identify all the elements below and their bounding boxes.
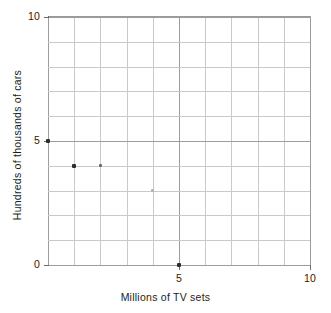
- y-axis-title: Hundreds of thousands of cars: [11, 55, 23, 235]
- data-point: [72, 164, 76, 168]
- gridline-horizontal: [48, 17, 310, 18]
- gridline-horizontal: [48, 191, 310, 192]
- gridline-horizontal: [48, 215, 310, 216]
- x-tick-mark: [310, 265, 311, 270]
- y-tick-mark: [44, 265, 49, 266]
- data-point: [177, 263, 181, 267]
- scatter-chart: 0510 510 Millions of TV sets Hundreds of…: [0, 0, 331, 313]
- y-tick-label: 10: [18, 10, 40, 22]
- gridline-horizontal: [48, 141, 310, 142]
- gridline-vertical: [310, 17, 311, 265]
- gridline-horizontal: [48, 91, 310, 92]
- x-tick-label: 10: [298, 272, 322, 284]
- x-tick-label: 5: [167, 272, 191, 284]
- gridline-horizontal: [48, 67, 310, 68]
- gridline-horizontal: [48, 116, 310, 117]
- gridline-horizontal: [48, 42, 310, 43]
- data-point: [46, 139, 50, 143]
- gridline-horizontal: [48, 166, 310, 167]
- y-tick-mark: [44, 17, 49, 18]
- x-axis-title: Millions of TV sets: [0, 291, 331, 303]
- y-tick-label: 0: [18, 258, 40, 270]
- gridline-horizontal: [48, 240, 310, 241]
- data-point: [99, 164, 102, 167]
